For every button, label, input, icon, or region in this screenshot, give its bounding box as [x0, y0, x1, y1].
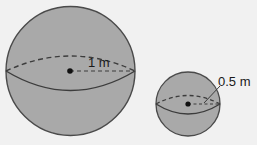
figure: 1 m 0.5 m: [0, 0, 257, 145]
spheres-drawing: [0, 0, 257, 145]
large-sphere: [6, 7, 135, 136]
small-radius-label: 0.5 m: [218, 74, 251, 89]
small-sphere: [156, 72, 220, 136]
large-radius-label: 1 m: [88, 55, 110, 70]
